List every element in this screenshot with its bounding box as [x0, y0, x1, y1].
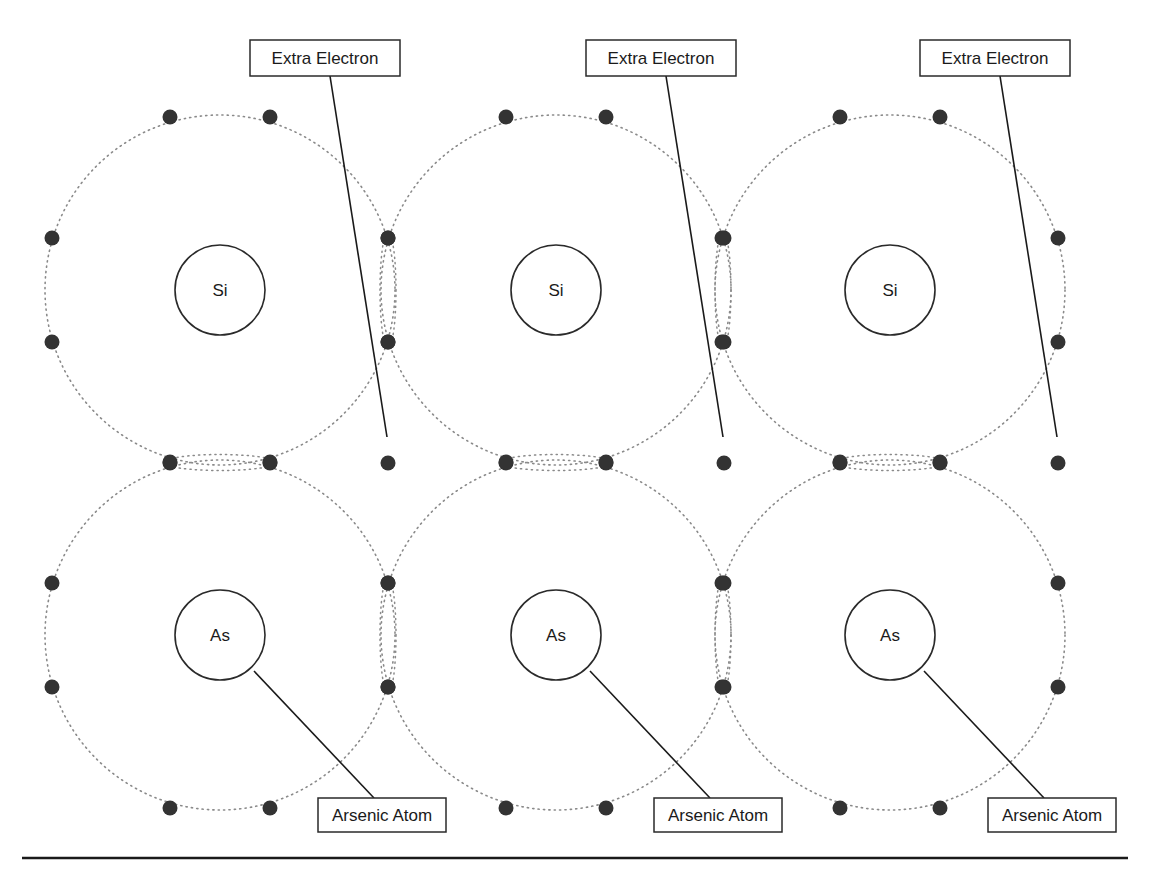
electron-top-2-2: [599, 110, 614, 125]
electron-bottom-1-8: [263, 801, 278, 816]
electron-bottom-2-7: [499, 801, 514, 816]
electron-bottom-1-2: [263, 455, 278, 470]
electron-bottom-2-5: [381, 680, 396, 695]
extra-electron-label-top-2: Extra Electron: [608, 49, 715, 68]
nucleus-label-bottom-1: As: [210, 626, 230, 645]
electron-bottom-3-3: [715, 576, 730, 591]
horizontal-bond-lobe-1-1: [380, 232, 396, 348]
electron-top-3-2: [933, 110, 948, 125]
electron-top-3-5: [715, 335, 730, 350]
electron-top-2-3: [381, 231, 396, 246]
vertical-bond-lobe-1: [164, 455, 276, 471]
nucleus-label-top-3: Si: [882, 281, 897, 300]
electron-bottom-1-1: [163, 455, 178, 470]
electron-top-1-5: [45, 335, 60, 350]
nucleus-label-bottom-2: As: [546, 626, 566, 645]
vertical-bond-lobe-2: [500, 455, 612, 471]
electron-top-1-3: [45, 231, 60, 246]
electron-bottom-3-7: [833, 801, 848, 816]
electron-top-1-1: [163, 110, 178, 125]
arsenic-atom-label-bottom-2: Arsenic Atom: [668, 806, 768, 825]
extra-electron-label-top-3: Extra Electron: [942, 49, 1049, 68]
electron-bottom-3-8: [933, 801, 948, 816]
arsenic-atom-label-bottom-1: Arsenic Atom: [332, 806, 432, 825]
orbits-layer: [45, 115, 1065, 810]
electrons-layer: [45, 110, 1066, 816]
extra-electron-label-top-1: Extra Electron: [272, 49, 379, 68]
extra-electron-top-1: [381, 456, 396, 471]
arsenic-atom-leader-bottom-2: [590, 671, 710, 798]
electron-bottom-3-1: [833, 455, 848, 470]
electron-bottom-1-3: [45, 576, 60, 591]
extra-electron-leader-top-1: [330, 76, 387, 437]
semiconductor-diagram: SiSiSiAsAsAs Extra ElectronExtra Electro…: [0, 0, 1153, 871]
electron-bottom-3-5: [715, 680, 730, 695]
vertical-bond-lobe-3: [834, 455, 946, 471]
electron-top-3-4: [1051, 231, 1066, 246]
nucleus-label-top-2: Si: [548, 281, 563, 300]
nucleus-label-top-1: Si: [212, 281, 227, 300]
arsenic-atom-leader-bottom-1: [254, 671, 374, 798]
electron-bottom-2-2: [599, 455, 614, 470]
electron-bottom-3-6: [1051, 680, 1066, 695]
electron-bottom-1-7: [163, 801, 178, 816]
electron-top-3-1: [833, 110, 848, 125]
electron-bottom-3-4: [1051, 576, 1066, 591]
electron-top-2-5: [381, 335, 396, 350]
extra-electron-top-3: [1051, 456, 1066, 471]
electron-bottom-2-1: [499, 455, 514, 470]
arsenic-atom-leader-bottom-3: [924, 671, 1044, 798]
horizontal-bond-lobe-1-2: [715, 232, 731, 348]
electron-top-3-6: [1051, 335, 1066, 350]
nucleus-label-bottom-3: As: [880, 626, 900, 645]
leader-lines-layer: [254, 76, 1057, 798]
horizontal-bond-lobe-2-2: [715, 577, 731, 693]
extra-electron-leader-top-3: [1000, 76, 1057, 437]
extra-electron-top-2: [717, 456, 732, 471]
electron-bottom-2-8: [599, 801, 614, 816]
nuclei-layer: SiSiSiAsAsAs: [175, 245, 935, 680]
electron-bottom-2-3: [381, 576, 396, 591]
electron-top-2-1: [499, 110, 514, 125]
horizontal-bond-lobe-2-1: [380, 577, 396, 693]
extra-electron-leader-top-2: [666, 76, 723, 437]
electron-top-1-2: [263, 110, 278, 125]
electron-bottom-1-5: [45, 680, 60, 695]
electron-bottom-3-2: [933, 455, 948, 470]
electron-top-3-3: [715, 231, 730, 246]
arsenic-atom-label-bottom-3: Arsenic Atom: [1002, 806, 1102, 825]
